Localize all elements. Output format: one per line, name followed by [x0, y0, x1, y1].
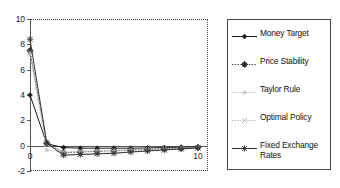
series-fixed-exchange-rates — [27, 36, 201, 158]
y-tick-label: 6 — [20, 65, 25, 74]
legend-sample-cross-icon — [231, 112, 258, 123]
plot-area: 1086420-2 010 — [30, 19, 208, 171]
data-point-marker — [94, 151, 100, 157]
data-point-marker — [111, 150, 117, 156]
data-point-marker — [60, 152, 66, 158]
series-price-stability — [27, 47, 202, 156]
legend-item-fixed-exchange-rates[interactable]: Fixed Exchange Rates — [231, 140, 331, 160]
y-tick-label: 0 — [20, 141, 25, 150]
series-money-target — [28, 93, 201, 151]
legend-item-taylor-rule[interactable]: Taylor Rule — [231, 84, 331, 95]
data-point-marker — [241, 145, 247, 151]
legend-sample-star-icon — [231, 84, 258, 95]
legend-item-money-target[interactable]: Money Target — [231, 28, 331, 39]
series-line — [30, 39, 198, 155]
data-point-marker — [195, 145, 201, 151]
legend-sample-asterisk-icon — [231, 140, 258, 151]
series-line — [30, 54, 198, 152]
data-point-marker — [144, 148, 150, 154]
series-line — [30, 51, 198, 153]
legend-label: Fixed Exchange Rates — [260, 140, 318, 160]
legend-label: Optimal Policy — [260, 112, 311, 122]
y-tick-label: 8 — [20, 40, 25, 49]
y-tick-label: 2 — [20, 116, 25, 125]
data-point-marker — [178, 146, 184, 152]
data-point-marker — [128, 149, 134, 155]
legend-item-price-stability[interactable]: Price Stability — [231, 56, 331, 67]
legend-label: Money Target — [260, 28, 309, 38]
y-tick-label: 10 — [16, 15, 25, 24]
series-line — [30, 52, 198, 155]
y-tick-mark — [27, 171, 31, 172]
legend-item-optimal-policy[interactable]: Optimal Policy — [231, 112, 331, 123]
data-point-marker — [241, 61, 248, 68]
series-taylor-rule — [28, 52, 201, 154]
legend-sample-diamond-icon — [231, 28, 258, 39]
legend-label: Taylor Rule — [260, 84, 300, 94]
data-curves — [30, 19, 208, 171]
data-point-marker — [242, 90, 247, 94]
y-tick-label: -2 — [18, 167, 25, 176]
data-point-marker — [242, 34, 247, 39]
data-point-marker — [77, 151, 83, 157]
data-point-marker — [27, 36, 33, 42]
series-optimal-policy — [28, 49, 201, 157]
legend: Money TargetPrice StabilityTaylor RuleOp… — [227, 19, 331, 170]
data-point-marker — [28, 93, 33, 98]
data-point-marker — [44, 140, 50, 146]
chart-figure: 1086420-2 010 Money TargetPrice Stabilit… — [0, 0, 340, 188]
series-line — [30, 95, 198, 148]
legend-sample-circle-cross-icon — [231, 56, 258, 67]
legend-label: Price Stability — [260, 56, 308, 66]
y-tick-label: 4 — [20, 91, 25, 100]
data-point-marker — [161, 147, 167, 153]
